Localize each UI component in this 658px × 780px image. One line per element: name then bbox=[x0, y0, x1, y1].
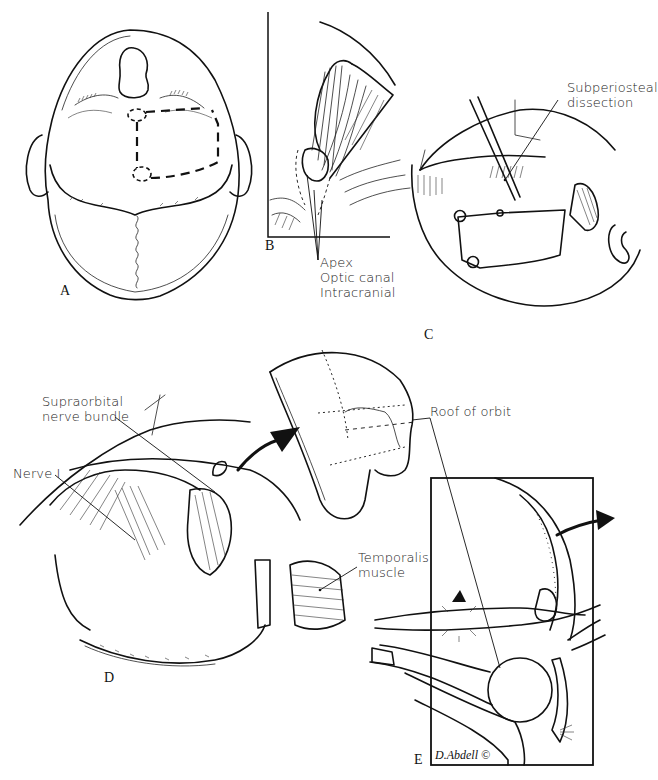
panel-b-drawing bbox=[268, 12, 410, 260]
label-temporalis-line1: Temporalis bbox=[358, 550, 429, 565]
panel-letter-e: E bbox=[414, 752, 423, 768]
label-supraorbital-line2: nerve bundle bbox=[42, 409, 129, 424]
panel-letter-a: A bbox=[60, 283, 70, 299]
label-subperiosteal-line1: Subperiosteal bbox=[567, 80, 658, 95]
bone-flap-drawing bbox=[270, 350, 500, 668]
label-apex: Apex bbox=[320, 255, 353, 270]
panel-letter-d: D bbox=[104, 670, 114, 686]
label-subperiosteal-line2: dissection bbox=[567, 95, 633, 110]
panel-letter-b: B bbox=[265, 238, 274, 254]
label-temporalis-line2: muscle bbox=[358, 565, 405, 580]
panel-d-drawing bbox=[20, 395, 357, 666]
panel-c-drawing bbox=[412, 97, 640, 306]
label-optic-canal: Optic canal bbox=[320, 270, 395, 285]
label-intracranial: Intracranial bbox=[320, 285, 396, 300]
panel-letter-c: C bbox=[424, 327, 433, 343]
label-nerve-i: Nerve I bbox=[13, 466, 60, 481]
panel-a-drawing bbox=[26, 30, 251, 300]
label-supraorbital-line1: Supraorbital bbox=[42, 394, 123, 409]
artist-signature: D.Abdell © bbox=[435, 748, 490, 763]
panel-e-drawing bbox=[370, 478, 615, 765]
label-roof-of-orbit: Roof of orbit bbox=[430, 404, 511, 419]
